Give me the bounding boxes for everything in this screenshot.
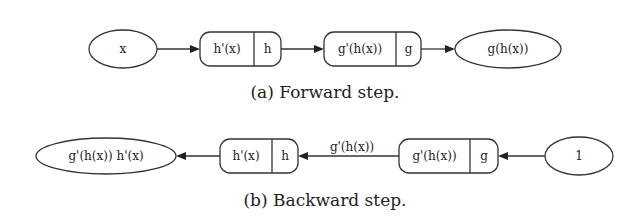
forward-caption: (a) Forward step. xyxy=(250,82,399,102)
arrowhead-icon xyxy=(298,152,308,160)
backward-node-g-derivative: g'(h(x)) xyxy=(412,149,456,163)
forward-node-h: h'(x) h xyxy=(200,32,281,66)
arrowhead-icon xyxy=(190,45,200,53)
forward-output-node: g(h(x)) xyxy=(455,30,561,68)
forward-node-h-derivative: h'(x) xyxy=(213,42,240,56)
backward-caption: (b) Backward step. xyxy=(243,190,406,210)
forward-step-graph: x h'(x) h g'(h(x)) g xyxy=(89,30,561,102)
backward-output-node: g'(h(x)) h'(x) xyxy=(36,138,176,174)
backward-node-h: h'(x) h xyxy=(220,139,298,173)
arrowhead-icon xyxy=(176,152,186,160)
backward-edge-seed-to-g xyxy=(498,152,545,160)
arrowhead-icon xyxy=(314,45,324,53)
computation-graph-diagram: x h'(x) h g'(h(x)) g xyxy=(0,0,642,217)
forward-edge-g-to-output xyxy=(421,45,455,53)
forward-node-g-function: g xyxy=(405,42,413,56)
backward-output-label: g'(h(x)) h'(x) xyxy=(68,149,143,163)
forward-edge-h-to-g xyxy=(281,45,324,53)
backward-node-h-derivative: h'(x) xyxy=(232,149,259,163)
backward-input-node: 1 xyxy=(545,137,613,175)
backward-node-h-function: h xyxy=(281,149,289,163)
forward-edge-x-to-h xyxy=(157,45,200,53)
forward-input-node: x xyxy=(89,30,157,68)
arrowhead-icon xyxy=(445,45,455,53)
forward-input-label: x xyxy=(120,42,127,56)
forward-node-h-function: h xyxy=(264,42,272,56)
arrowhead-icon xyxy=(498,152,508,160)
forward-node-g: g'(h(x)) g xyxy=(324,32,421,66)
backward-node-g-function: g xyxy=(480,149,488,163)
forward-output-label: g(h(x)) xyxy=(488,42,529,56)
backward-edge-h-to-output xyxy=(176,152,220,160)
backward-edge-g-to-h: g'(h(x)) xyxy=(298,140,399,160)
backward-node-g: g'(h(x)) g xyxy=(399,139,498,173)
forward-node-g-derivative: g'(h(x)) xyxy=(338,42,382,56)
backward-edge-label: g'(h(x)) xyxy=(330,140,374,154)
backward-step-graph: g'(h(x)) h'(x) h'(x) h g'(h(x)) g'(h(x))… xyxy=(36,137,613,210)
backward-input-label: 1 xyxy=(575,149,583,163)
